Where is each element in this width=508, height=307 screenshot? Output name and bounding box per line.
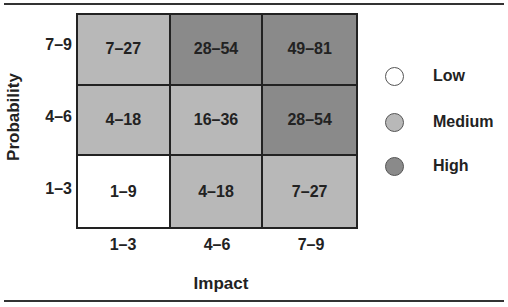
- cell-r2-c2: 7–27: [263, 156, 356, 227]
- bottom-rule: [4, 300, 504, 302]
- cell-r0-c2: 49–81: [263, 15, 356, 86]
- y-axis-label: Probability: [4, 67, 24, 167]
- x-axis-label: Impact: [166, 274, 276, 294]
- x-tick-4-6: 4–6: [170, 236, 264, 254]
- legend-label-medium: Medium: [433, 113, 493, 131]
- legend-label-low: Low: [433, 67, 465, 85]
- legend-label-high: High: [433, 157, 469, 175]
- cell-r2-c0: 1–9: [78, 156, 171, 227]
- legend-item-medium: Medium: [385, 110, 493, 134]
- x-tick-1-3: 1–3: [76, 236, 170, 254]
- legend-swatch-medium-icon: [385, 113, 404, 132]
- y-tick-1-3: 1–3: [36, 180, 72, 198]
- legend-swatch-low-icon: [385, 67, 404, 86]
- cell-r0-c0: 7–27: [78, 15, 171, 86]
- cell-r1-c2: 28–54: [263, 86, 356, 157]
- y-tick-4-6: 4–6: [36, 108, 72, 126]
- risk-matrix: 7–27 28–54 49–81 4–18 16–36 28–54 1–9 4–…: [76, 13, 358, 229]
- y-tick-7-9: 7–9: [36, 36, 72, 54]
- top-rule: [4, 3, 504, 5]
- legend-item-low: Low: [385, 64, 465, 88]
- cell-r1-c0: 4–18: [78, 86, 171, 157]
- legend-item-high: High: [385, 154, 469, 178]
- cell-r0-c1: 28–54: [171, 15, 264, 86]
- x-tick-7-9: 7–9: [264, 236, 358, 254]
- cell-r2-c1: 4–18: [171, 156, 264, 227]
- cell-r1-c1: 16–36: [171, 86, 264, 157]
- legend-swatch-high-icon: [385, 157, 404, 176]
